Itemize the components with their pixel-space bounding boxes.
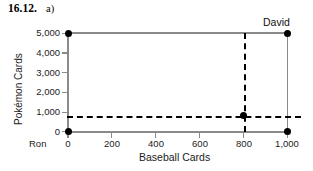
data-point-david [284,30,291,37]
origin-point-label: Ron [29,139,46,149]
y-tick-label-2000: 2,000 [18,87,60,97]
scatter-plot: 5,000 4,000 3,000 2,000 1,000 0 Pokémon … [0,0,313,171]
x-tick-label-600: 600 [184,139,216,149]
y-tick-label-1000: 1,000 [18,107,60,117]
y-tick-4000 [62,52,67,53]
y-tick-label-5000: 5,000 [18,28,60,38]
data-point-ron-top [65,30,72,37]
x-tick-800 [243,133,244,138]
x-tick-label-1000: 1,000 [268,139,306,149]
y-axis-title: Pokémon Cards [13,53,24,125]
x-axis-line [67,131,288,133]
x-tick-label-200: 200 [96,139,128,149]
data-point-origin [65,128,72,135]
dashed-horizontal-guide [67,116,301,118]
x-tick-label-800: 800 [228,139,260,149]
top-boundary-line [67,32,288,34]
y-tick-2000 [62,92,67,93]
x-tick-label-0: 0 [53,139,83,149]
x-tick-400 [155,133,156,138]
x-tick-label-400: 400 [140,139,172,149]
data-point-david-bottom [284,128,291,135]
x-axis-title: Baseball Cards [139,152,210,163]
y-tick-1000 [62,112,67,113]
figure-container: 16.12. a) 5,000 4,000 3,000 2,000 1,000 … [0,0,313,171]
data-point-label-david: David [263,17,290,28]
y-tick-3000 [62,72,67,73]
y-tick-label-4000: 4,000 [18,48,60,58]
y-tick-label-0: 0 [18,127,60,137]
x-tick-200 [111,133,112,138]
x-tick-600 [199,133,200,138]
data-point-intersection [240,112,247,119]
y-tick-label-3000: 3,000 [18,68,60,78]
